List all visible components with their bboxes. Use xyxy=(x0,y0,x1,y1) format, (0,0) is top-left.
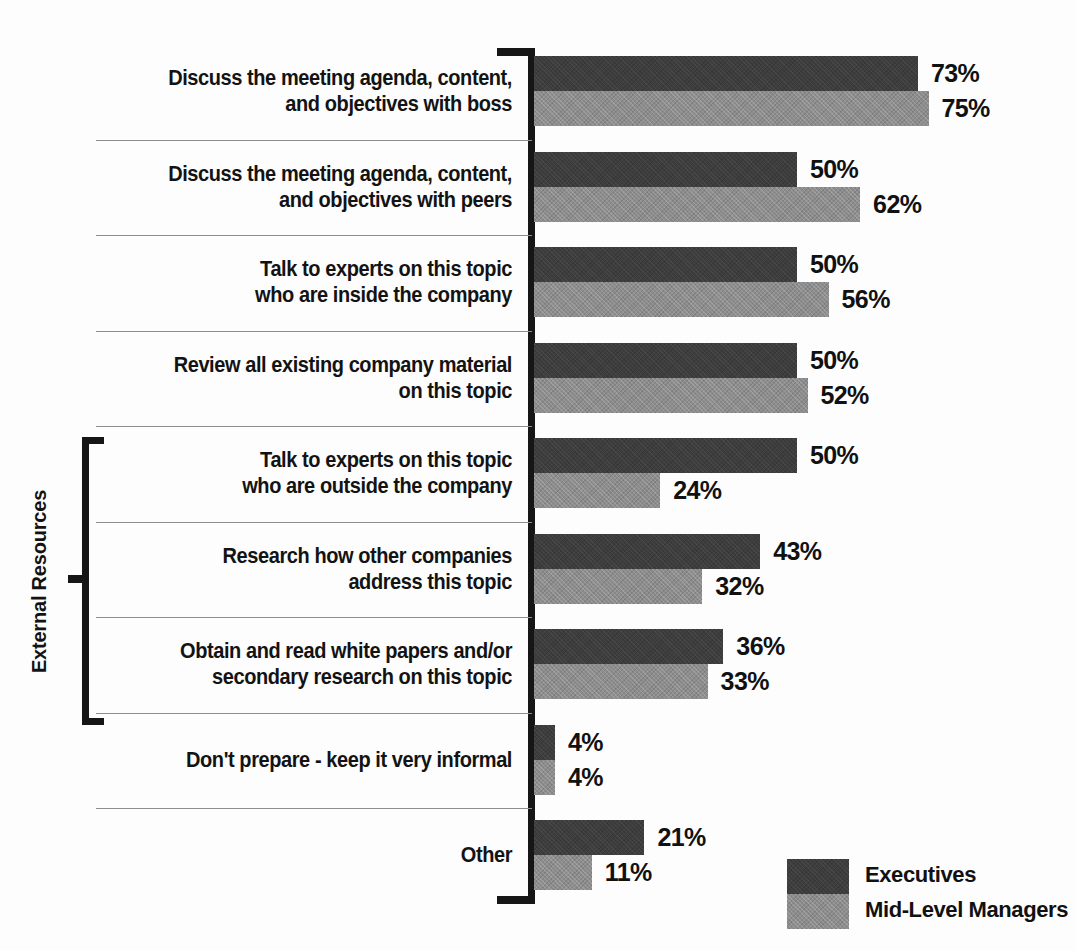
category-label: Discuss the meeting agenda, content,and … xyxy=(121,161,512,213)
row-separator xyxy=(96,522,532,523)
category-label-line: who are inside the company xyxy=(121,282,512,308)
bar-value-label: 21% xyxy=(657,820,705,855)
row-separator xyxy=(96,426,532,427)
bar-value-label: 50% xyxy=(810,247,858,282)
category-label: Discuss the meeting agenda, content,and … xyxy=(121,65,512,117)
bar-value-label: 73% xyxy=(931,56,979,91)
legend-label-mid-level-managers: Mid-Level Managers xyxy=(865,892,1068,927)
category-label-line: Talk to experts on this topic xyxy=(121,256,512,282)
bar-executives xyxy=(534,725,555,760)
bar-mid-level-managers xyxy=(534,187,860,222)
row-separator xyxy=(96,235,532,236)
bar-executives xyxy=(534,629,723,664)
row-separator xyxy=(96,713,532,714)
bar-chart: Discuss the meeting agenda, content,and … xyxy=(0,0,1076,951)
category-label: Don't prepare - keep it very informal xyxy=(121,747,512,773)
chart-title xyxy=(180,0,880,2)
bar-value-label: 52% xyxy=(821,378,869,413)
bar-executives xyxy=(534,438,797,473)
bar-mid-level-managers xyxy=(534,282,829,317)
bar-value-label: 24% xyxy=(673,473,721,508)
external-resources-label-text: External Resources xyxy=(29,489,52,672)
bar-value-label: 43% xyxy=(773,534,821,569)
external-resources-label: External Resources xyxy=(20,437,60,725)
category-label-line: Discuss the meeting agenda, content, xyxy=(121,161,512,187)
bar-value-label: 4% xyxy=(568,725,603,760)
category-label: Research how other companiesaddress this… xyxy=(121,543,512,595)
bar-mid-level-managers xyxy=(534,91,929,126)
bracket-arm-bottom xyxy=(82,718,104,725)
category-label-line: on this topic xyxy=(121,378,512,404)
bracket-arm-top xyxy=(82,437,104,444)
bar-executives xyxy=(534,534,760,569)
category-label: Other xyxy=(121,842,512,868)
category-label: Talk to experts on this topicwho are out… xyxy=(121,447,512,499)
bar-value-label: 4% xyxy=(568,760,603,795)
bar-value-label: 50% xyxy=(810,438,858,473)
category-label: Talk to experts on this topicwho are ins… xyxy=(121,256,512,308)
bar-executives xyxy=(534,247,797,282)
bar-mid-level-managers xyxy=(534,855,592,890)
category-label-line: and objectives with boss xyxy=(121,91,512,117)
bar-value-label: 75% xyxy=(942,91,990,126)
category-label-line: who are outside the company xyxy=(121,473,512,499)
category-label: Obtain and read white papers and/orsecon… xyxy=(121,638,512,690)
legend-label-executives: Executives xyxy=(865,857,976,892)
bar-mid-level-managers xyxy=(534,378,808,413)
category-label-line: Review all existing company material xyxy=(121,352,512,378)
category-label-line: Obtain and read white papers and/or xyxy=(121,638,512,664)
category-label-line: Research how other companies xyxy=(121,543,512,569)
legend-swatches xyxy=(787,859,849,929)
bar-value-label: 50% xyxy=(810,343,858,378)
category-label-line: Don't prepare - keep it very informal xyxy=(121,747,512,773)
bar-value-label: 33% xyxy=(721,664,769,699)
category-label-line: Other xyxy=(121,842,512,868)
bracket-tick xyxy=(68,575,84,583)
category-label-line: address this topic xyxy=(121,569,512,595)
bar-value-label: 32% xyxy=(715,569,763,604)
bar-value-label: 50% xyxy=(810,152,858,187)
legend-swatch-executives xyxy=(787,859,849,894)
external-resources-bracket xyxy=(74,437,96,725)
bar-value-label: 62% xyxy=(873,187,921,222)
bar-executives xyxy=(534,56,918,91)
bar-value-label: 11% xyxy=(605,855,652,890)
row-separator xyxy=(96,140,532,141)
bar-value-label: 56% xyxy=(842,282,890,317)
bar-value-label: 36% xyxy=(736,629,784,664)
category-label-line: Talk to experts on this topic xyxy=(121,447,512,473)
category-label-line: secondary research on this topic xyxy=(121,664,512,690)
category-label-line: Discuss the meeting agenda, content, xyxy=(121,65,512,91)
row-separator xyxy=(96,331,532,332)
axis-cap-top xyxy=(497,48,535,56)
bar-mid-level-managers xyxy=(534,760,555,795)
row-separator xyxy=(96,808,532,809)
bar-executives xyxy=(534,343,797,378)
row-separator xyxy=(96,617,532,618)
category-label: Review all existing company materialon t… xyxy=(121,352,512,404)
bar-executives xyxy=(534,152,797,187)
bar-mid-level-managers xyxy=(534,473,660,508)
legend-swatch-mid-level-managers xyxy=(787,894,849,929)
category-label-line: and objectives with peers xyxy=(121,187,512,213)
bar-executives xyxy=(534,820,644,855)
axis-cap-bottom xyxy=(497,896,535,904)
bar-mid-level-managers xyxy=(534,664,708,699)
bar-mid-level-managers xyxy=(534,569,702,604)
